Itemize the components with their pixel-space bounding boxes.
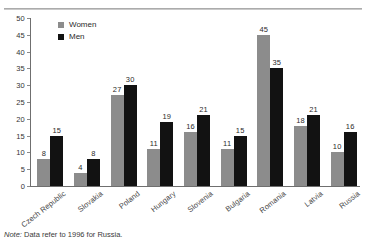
bar-women: 27 [111,95,124,186]
bar-women: 45 [257,35,270,186]
bar-group: 1119 [147,18,173,186]
bar-value-label: 11 [223,139,231,148]
y-tick-label: 0 [21,182,25,191]
bar-group: 48 [74,18,100,186]
bar-women: 11 [221,149,234,186]
bar-value-label: 15 [236,126,245,135]
bar-men: 16 [344,132,357,186]
bar-women: 4 [74,173,87,186]
bar-men: 15 [234,136,247,186]
bar-value-label: 16 [346,122,355,131]
bar-women: 10 [331,152,344,186]
bar-men: 21 [197,115,210,186]
bar-value-label: 16 [186,122,195,131]
x-axis-label-slovakia: Slovakia [76,189,105,214]
bar-group: 1821 [294,18,320,186]
bar-men: 35 [270,68,283,186]
x-axis-line [30,186,360,187]
bar-group: 1621 [184,18,210,186]
y-tick-label: 20 [16,114,25,123]
x-axis-label-slovenia: Slovenia [186,189,215,214]
bar-men: 30 [124,85,137,186]
x-axis-label-hungary: Hungary [149,189,177,214]
y-tick-mark [27,186,30,187]
top-divider-rule [4,8,362,10]
bar-value-label: 45 [259,25,268,34]
bar-value-label: 21 [199,105,208,114]
chart-note: Note: Data refer to 1996 for Russia. [4,230,122,239]
chart-figure: 05101520253035404550 Women Men 815482730… [0,0,366,244]
bar-women: 18 [294,126,307,186]
chart-note-text: Data refer to 1996 for Russia. [22,230,122,239]
y-tick-label: 50 [16,14,25,23]
y-tick-label: 45 [16,30,25,39]
bar-group: 1016 [331,18,357,186]
bar-men: 15 [50,136,63,186]
y-tick-label: 5 [21,165,25,174]
bar-men: 19 [160,122,173,186]
bar-men: 21 [307,115,320,186]
bar-value-label: 15 [52,126,61,135]
bar-value-label: 8 [42,149,46,158]
bar-group: 815 [37,18,63,186]
bar-value-label: 18 [296,116,305,125]
bar-value-label: 11 [150,139,158,148]
y-tick-label: 10 [16,148,25,157]
y-tick-label: 40 [16,47,25,56]
bar-value-label: 19 [162,112,171,121]
bar-group: 4535 [257,18,283,186]
bar-value-label: 8 [91,149,95,158]
y-tick-label: 15 [16,131,25,140]
y-tick-label: 35 [16,64,25,73]
bar-value-label: 35 [272,58,281,67]
x-axis-label-czech-republic: Czech Republic [20,189,68,229]
x-axis-label-romania: Romania [258,189,288,215]
x-axis-label-russia: Russia [337,189,361,211]
bar-groups: 815482730111916211115453518211016 [30,18,360,186]
x-axis-label-poland: Poland [117,189,141,211]
y-tick-label: 25 [16,98,25,107]
bar-group: 1115 [221,18,247,186]
bar-value-label: 30 [126,75,135,84]
bar-women: 8 [37,159,50,186]
bar-value-label: 21 [309,105,318,114]
x-axis-label-latvia: Latvia [303,189,325,209]
bar-value-label: 10 [333,142,342,151]
bar-men: 8 [87,159,100,186]
chart-note-lead: Note: [4,230,22,239]
bar-women: 16 [184,132,197,186]
y-tick-label: 30 [16,81,25,90]
bar-value-label: 27 [113,85,122,94]
bar-group: 2730 [111,18,137,186]
x-axis-label-bulgaria: Bulgaria [223,189,251,214]
bar-value-label: 4 [78,163,82,172]
bar-women: 11 [147,149,160,186]
